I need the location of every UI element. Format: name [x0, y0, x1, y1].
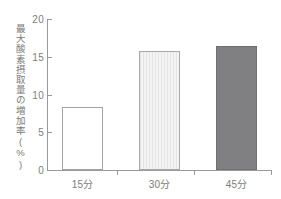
y-tick-mark-20	[48, 19, 52, 20]
x-category-label-15min: 15分	[72, 176, 94, 191]
x-axis-line	[47, 170, 272, 171]
bar-15min	[62, 107, 103, 170]
bar-chart: 最大酸素摂取量の増加率(%) 20 15 10 5 0 15分 30分 45分	[0, 0, 281, 199]
bar-45min	[216, 46, 257, 170]
y-tick-label-5: 5	[38, 127, 44, 138]
y-tick-mark-0	[48, 170, 52, 171]
x-tick-mark-3	[271, 171, 272, 175]
x-tick-mark-2	[194, 171, 195, 175]
y-tick-mark-5	[48, 132, 52, 133]
x-tick-mark-1	[117, 171, 118, 175]
y-tick-label-0: 0	[38, 165, 44, 176]
y-tick-label-10: 10	[32, 89, 44, 100]
y-tick-mark-10	[48, 95, 52, 96]
y-axis-tick-labels: 20 15 10 5 0	[24, 0, 44, 199]
x-category-label-45min: 45分	[226, 176, 248, 191]
bar-30min	[139, 51, 180, 170]
y-tick-mark-15	[48, 57, 52, 58]
y-tick-label-20: 20	[32, 14, 44, 25]
y-tick-label-15: 15	[32, 51, 44, 62]
x-category-label-30min: 30分	[149, 176, 171, 191]
